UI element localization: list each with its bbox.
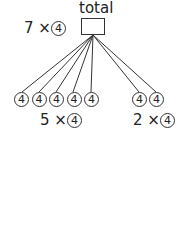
- unit-node: 4: [84, 92, 99, 107]
- group-five-expression: 5 ×4: [40, 111, 82, 129]
- group-two-expression: 2 ×4: [133, 111, 175, 129]
- unit-node: 4: [14, 92, 29, 107]
- unit-node: 4: [49, 92, 64, 107]
- group-multiplier: 5 ×: [40, 111, 67, 129]
- unit-node: 4: [132, 92, 147, 107]
- unit-node: 4: [67, 92, 82, 107]
- circled-unit: 4: [160, 113, 175, 128]
- unit-node: 4: [32, 92, 47, 107]
- unit-node: 4: [149, 92, 164, 107]
- circled-unit: 4: [67, 113, 82, 128]
- group-multiplier: 2 ×: [133, 111, 160, 129]
